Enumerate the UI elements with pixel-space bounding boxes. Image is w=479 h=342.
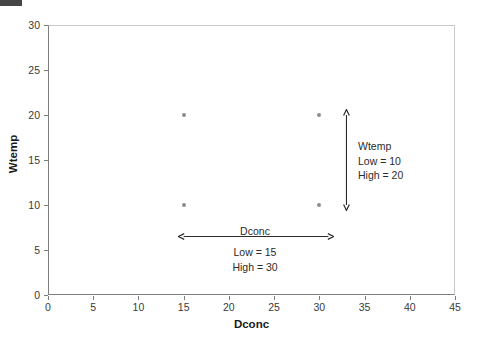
annotation-arrows bbox=[0, 0, 479, 342]
scatter-plot-figure: 051015202530354045051015202530 Dconc Wte… bbox=[0, 0, 479, 342]
dconc-annotation-high: High = 30 bbox=[232, 260, 277, 275]
dconc-range-annotation: Low = 15 High = 30 bbox=[232, 245, 277, 274]
wtemp-annotation-title: Wtemp bbox=[358, 139, 403, 154]
dconc-annotation-title-wrap: Dconc bbox=[240, 224, 270, 239]
dconc-annotation-low: Low = 15 bbox=[232, 245, 277, 260]
wtemp-annotation-high: High = 20 bbox=[358, 168, 403, 183]
wtemp-annotation-low: Low = 10 bbox=[358, 154, 403, 169]
dconc-annotation-title: Dconc bbox=[240, 224, 270, 239]
wtemp-range-annotation: Wtemp Low = 10 High = 20 bbox=[358, 139, 403, 183]
